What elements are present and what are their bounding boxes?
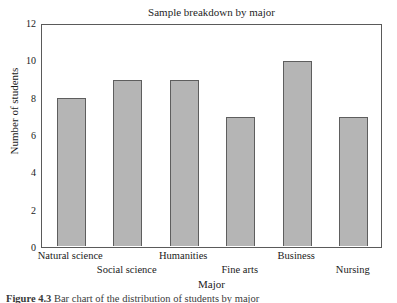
bar	[170, 80, 199, 247]
figure-caption: Figure 4.3 Bar chart of the distribution…	[6, 293, 391, 303]
bar	[113, 80, 142, 247]
y-tick-label: 4	[31, 168, 36, 178]
figure-container: Sample breakdown by major Number of stud…	[0, 0, 397, 303]
bars-container	[43, 26, 380, 246]
bar	[283, 61, 312, 246]
x-tick-label: Business	[278, 250, 315, 262]
plot-area	[41, 24, 382, 248]
x-tick-label: Nursing	[336, 264, 370, 276]
x-tick-label: Humanities	[159, 250, 207, 262]
y-tick-label: 0	[31, 243, 36, 253]
figure-caption-text: Bar chart of the distribution of student…	[54, 293, 259, 303]
y-tick-label: 8	[31, 94, 36, 104]
x-tick-label: Social science	[97, 264, 157, 276]
figure-caption-number: Figure 4.3	[6, 293, 51, 303]
y-tick-label: 6	[31, 131, 36, 141]
y-tick-label: 2	[31, 206, 36, 216]
bar	[57, 98, 86, 246]
y-tick-label: 10	[26, 56, 36, 66]
x-tick-label: Natural science	[38, 250, 103, 262]
y-axis-ticks: 024681012	[0, 24, 41, 248]
x-tick-label: Fine arts	[222, 264, 258, 276]
chart-title: Sample breakdown by major	[41, 6, 382, 19]
y-tick-label: 12	[26, 19, 36, 29]
x-axis-title: Major	[41, 278, 382, 290]
bar	[226, 117, 255, 247]
bar	[339, 117, 368, 247]
